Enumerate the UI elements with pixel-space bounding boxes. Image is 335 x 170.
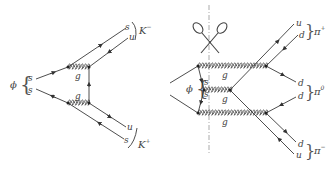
scissors-icon <box>191 21 229 53</box>
quark-label-u-kminus: u <box>129 32 135 42</box>
arrow-icon <box>109 50 112 52</box>
kminus-label: K− <box>138 23 152 36</box>
quark-label-s-kminus: s <box>125 22 130 32</box>
pi-plus-label: π+ <box>313 24 326 37</box>
quark-line-u-out-top <box>89 38 128 67</box>
vertex <box>197 65 200 68</box>
vertex <box>203 89 206 92</box>
phi-label: ϕ <box>186 83 193 94</box>
vertex <box>229 89 232 92</box>
pi-minus-label: π− <box>313 143 326 156</box>
kplus-label: K+ <box>137 137 151 150</box>
phi-label: ϕ <box>10 79 17 90</box>
gluon-line-bottom <box>198 110 268 115</box>
quark-line-u-pi-plus <box>230 24 294 90</box>
arrow-icon <box>52 96 56 98</box>
quark-line-s-in-bottom <box>170 95 198 113</box>
vertex <box>197 112 200 115</box>
vertex <box>67 66 70 69</box>
quark-line-s-in-top <box>170 66 198 83</box>
quark-label-s-bottom: s <box>28 85 33 95</box>
feynman-diagrams: ϕ { s s g g s u K− u s <box>0 0 335 170</box>
pion-diagram: ϕ { s s g g g <box>170 5 326 161</box>
quark-label-d-pi-minus: d <box>298 139 304 149</box>
gluon-line-top <box>198 63 268 68</box>
pi-zero-label: π0 <box>313 84 325 97</box>
quark-line-s-out-bottom <box>68 103 124 139</box>
quark-label-u-pi-minus: u <box>296 150 302 160</box>
arrow-icon <box>279 139 281 141</box>
kaon-diagram: ϕ { s s g g s u K− u s <box>10 22 152 150</box>
arrow-icon <box>281 104 283 105</box>
quark-label-s-kplus: s <box>124 135 129 145</box>
quark-label-u-pi-plus: u <box>296 18 302 28</box>
quark-line-d-pi-minus <box>266 113 296 142</box>
gluon-label-middle: g <box>222 94 228 104</box>
vertex <box>88 66 91 69</box>
quark-label-s-top: s <box>204 77 209 87</box>
vertex <box>88 102 91 105</box>
vertex <box>265 112 268 115</box>
vertex <box>265 65 268 68</box>
quark-line-u-pi-minus <box>230 90 294 154</box>
arrow-icon <box>99 123 102 125</box>
arrow-icon <box>281 74 283 75</box>
gluon-label-top: g <box>222 70 228 80</box>
quark-label-u-kplus: u <box>127 122 133 132</box>
gluon-label-bottom: g <box>75 91 81 101</box>
gluon-label-bottom: g <box>222 117 228 127</box>
quark-label-d-pi-zero-bottom: d <box>298 91 304 101</box>
quark-line-d-pi-plus <box>266 35 298 66</box>
quark-label-d-pi-zero-top: d <box>298 78 304 88</box>
vertex <box>67 102 70 105</box>
gluon-label-top: g <box>75 71 81 81</box>
quark-label-s-top: s <box>28 73 33 83</box>
